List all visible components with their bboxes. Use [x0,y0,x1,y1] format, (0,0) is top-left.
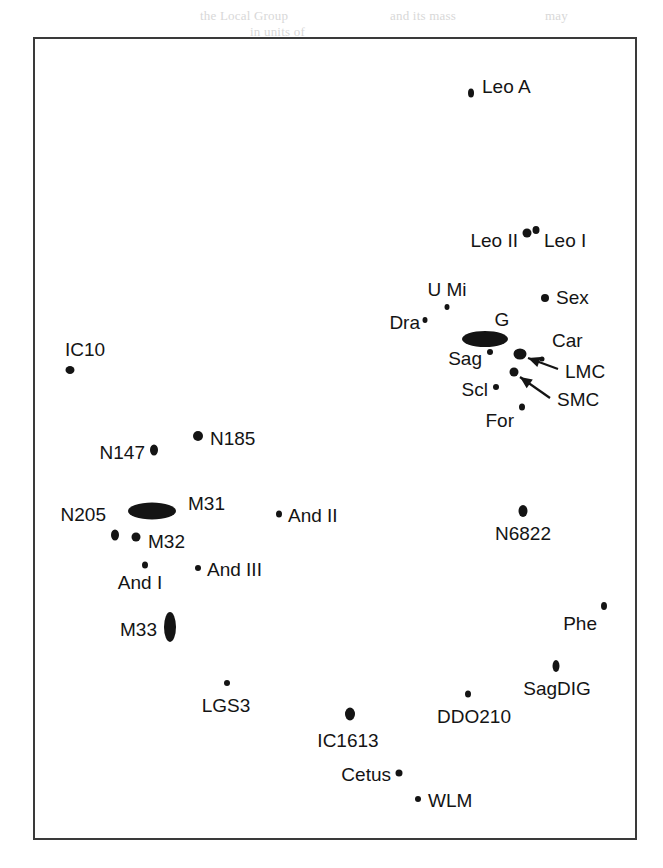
galaxy-label: Cetus [341,765,391,784]
galaxy-marker[interactable] [111,530,119,541]
annotation-arrow-layer [35,39,639,842]
galaxy-marker[interactable] [519,404,525,411]
galaxy-label: M31 [188,494,225,513]
galaxy-marker[interactable] [128,503,176,520]
galaxy-marker[interactable] [519,505,528,517]
galaxy-marker[interactable] [423,317,428,323]
galaxy-marker[interactable] [468,89,474,98]
galaxy-label: N205 [61,505,106,524]
galaxy-marker[interactable] [224,680,230,686]
galaxy-marker[interactable] [541,294,549,302]
galaxy-marker[interactable] [523,229,532,238]
galaxy-label: Scl [462,380,488,399]
galaxy-label: And II [288,506,338,525]
galaxy-marker[interactable] [195,565,201,571]
bleed-text-fragment: the Local Group [200,8,288,24]
galaxy-label: Dra [389,313,420,332]
galaxy-label: DDO210 [437,707,511,726]
galaxy-label: And I [118,573,162,592]
galaxy-marker[interactable] [553,660,560,672]
galaxy-marker[interactable] [445,304,450,310]
galaxy-marker[interactable] [150,445,158,456]
galaxy-label: IC10 [65,340,105,359]
galaxy-marker[interactable] [514,349,527,360]
galaxy-label: Leo I [544,231,586,250]
galaxy-marker[interactable] [66,366,75,374]
galaxy-label: N147 [100,443,145,462]
local-group-figure: the Local Groupand its massmayin units o… [0,0,663,868]
galaxy-marker[interactable] [142,562,148,569]
galaxy-marker[interactable] [132,533,141,542]
galaxy-label: LGS3 [202,696,251,715]
galaxy-marker[interactable] [601,602,607,610]
galaxy-marker[interactable] [193,431,203,441]
galaxy-marker[interactable] [510,368,519,377]
galaxy-marker[interactable] [465,691,471,698]
galaxy-marker[interactable] [276,511,282,518]
galaxy-marker[interactable] [164,612,176,642]
galaxy-label: Sag [448,349,482,368]
galaxy-label: Leo II [470,231,518,250]
smc-arrow [520,377,550,398]
galaxy-marker[interactable] [533,226,540,234]
galaxy-label: N185 [210,429,255,448]
galaxy-label: LMC [565,362,605,381]
galaxy-label: SagDIG [523,679,591,698]
galaxy-marker[interactable] [487,349,493,355]
galaxy-label: Car [552,331,583,350]
galaxy-label: IC1613 [317,731,378,750]
plot-frame: Leo ALeo IILeo IU MiDraSexGSagCarLMCSMCS… [33,37,637,840]
galaxy-label: M32 [148,532,185,551]
galaxy-marker[interactable] [493,384,499,390]
galaxy-label: Leo A [482,77,531,96]
galaxy-marker[interactable] [396,770,403,777]
galaxy-marker[interactable] [415,796,421,802]
galaxy-label: U Mi [427,280,466,299]
galaxy-label: Sex [556,288,589,307]
galaxy-marker[interactable] [345,708,355,721]
galaxy-label: SMC [557,390,599,409]
smc-arrow-head [520,377,533,388]
bleed-text-fragment: may [545,8,568,24]
galaxy-label: For [486,411,515,430]
galaxy-label: WLM [428,791,472,810]
galaxy-label: G [495,310,510,329]
galaxy-marker[interactable] [462,331,508,347]
galaxy-label: Phe [563,614,597,633]
bleed-text-fragment: and its mass [390,8,456,24]
galaxy-label: M33 [120,620,157,639]
galaxy-marker[interactable] [540,357,545,362]
galaxy-label: And III [207,560,262,579]
galaxy-label: N6822 [495,524,551,543]
